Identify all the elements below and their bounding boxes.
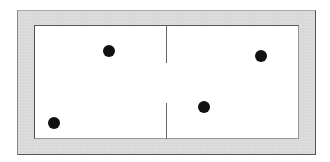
center-divider-bottom (166, 103, 167, 139)
center-divider-top (166, 25, 167, 63)
dot-lower-right-half (198, 101, 210, 113)
field-area (34, 25, 299, 139)
dot-lower-left (48, 117, 60, 129)
dot-upper-right (255, 50, 267, 62)
dot-upper-left-half (103, 45, 115, 57)
